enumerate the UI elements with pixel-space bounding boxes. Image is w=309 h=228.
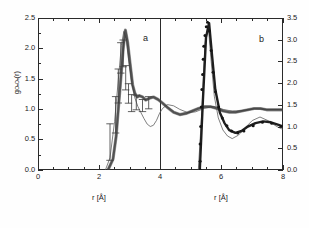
xtick-b-1 [221, 165, 222, 170]
xtick-top-minor-3 [114, 18, 115, 21]
xtick-top-minor-4 [130, 18, 131, 21]
xtick-a-minor-0 [53, 167, 54, 170]
xlabel-a-2: 4 [153, 173, 167, 181]
xtick-top-minor-7 [191, 18, 192, 21]
ytick-right-1 [278, 148, 283, 149]
ylabel-right-1: 0.5 [287, 144, 309, 152]
ylabel-right-3: 1.5 [287, 101, 309, 109]
xtick-a-0 [38, 165, 39, 170]
xtick-top-b-2 [283, 18, 284, 23]
xtick-a-minor-3 [114, 167, 115, 170]
y-axis-title-tail: (r) [12, 71, 21, 79]
xtick-top-minor-6 [175, 18, 176, 21]
ylabel-right-0: 0.0 [287, 166, 309, 174]
x-axis-title-b: r [Å] [196, 193, 246, 202]
ytick-left-minor-3 [38, 63, 41, 64]
xlabel-a-3: 6 [214, 173, 228, 181]
ytick-left-2 [38, 109, 43, 110]
ytick-left-minor-1 [38, 124, 41, 125]
y-axis-title-sub: OₙOₙ [14, 78, 20, 90]
ylabel-left-5: 2.5 [10, 14, 35, 22]
x-axis-title-a: r [Å] [74, 193, 124, 202]
panel-label-b: b [259, 34, 264, 44]
xtick-top-minor-1 [68, 18, 69, 21]
xtick-top-minor-9 [236, 18, 237, 21]
xtick-b-2 [283, 165, 284, 170]
xtick-top-minor-11 [267, 18, 268, 21]
xtick-top-minor-5 [145, 18, 146, 21]
figure-container: 0.0 0.5 1.0 1.5 2.0 2.5 0.0 0.5 1.0 1.5 … [0, 0, 309, 228]
xtick-top-minor-8 [206, 18, 207, 21]
ytick-left-minor-2 [38, 94, 41, 95]
xtick-b-minor-4 [252, 167, 253, 170]
ytick-left-0 [38, 170, 43, 171]
xtick-top-b-1 [221, 18, 222, 23]
xtick-b-minor-1 [191, 167, 192, 170]
ylabel-left-1: 0.5 [10, 135, 35, 143]
panel-b-data [38, 18, 283, 170]
xtick-a-minor-1 [68, 167, 69, 170]
xtick-a-minor-5 [145, 167, 146, 170]
y-axis-title-g: g [12, 90, 21, 94]
ytick-right-5 [278, 61, 283, 62]
ylabel-right-4: 2.0 [287, 79, 309, 87]
xlabel-a-1: 2 [92, 173, 106, 181]
ytick-right-3 [278, 105, 283, 106]
ytick-left-minor-0 [38, 155, 41, 156]
ylabel-right-5: 2.5 [287, 57, 309, 65]
xtick-a-minor-2 [84, 167, 85, 170]
xtick-b-minor-5 [267, 167, 268, 170]
y-axis-title: gOₙOₙ(r) [12, 53, 21, 113]
ytick-left-4 [38, 48, 43, 49]
xlabel-a-4: 8 [276, 173, 290, 181]
ytick-right-4 [278, 83, 283, 84]
ylabel-left-4: 2.0 [10, 44, 35, 52]
xtick-a-2 [160, 165, 161, 170]
xtick-top-minor-10 [252, 18, 253, 21]
ylabel-right-6: 3.0 [287, 36, 309, 44]
xtick-b-minor-0 [175, 167, 176, 170]
xtick-a-minor-4 [130, 167, 131, 170]
xtick-top-minor-2 [84, 18, 85, 21]
xlabel-a-0: 0 [31, 173, 45, 181]
ytick-left-minor-4 [38, 33, 41, 34]
panel-b-thick-line [200, 23, 283, 170]
xtick-top-minor-0 [53, 18, 54, 21]
ylabel-right-2: 1.0 [287, 123, 309, 131]
ytick-left-3 [38, 79, 43, 80]
xtick-top-a-0 [38, 18, 39, 23]
xtick-b-minor-2 [206, 167, 207, 170]
xtick-a-1 [99, 165, 100, 170]
panel-label-a: a [143, 33, 148, 43]
ytick-right-2 [278, 127, 283, 128]
xtick-top-a-2 [160, 18, 161, 23]
ytick-right-6 [278, 40, 283, 41]
ytick-right-0 [278, 170, 283, 171]
ylabel-right-7: 3.5 [287, 14, 309, 22]
xtick-top-a-1 [99, 18, 100, 23]
ytick-left-1 [38, 139, 43, 140]
xtick-b-minor-3 [236, 167, 237, 170]
